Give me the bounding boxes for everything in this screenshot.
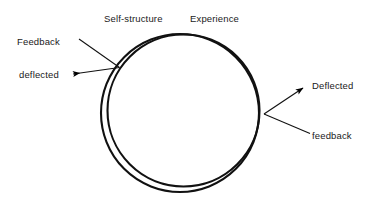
label-self-structure: Self-structure: [104, 13, 163, 24]
right-deflected-arrow: [264, 88, 303, 114]
label-deflected-left: deflected: [19, 69, 59, 80]
label-deflected-right: Deflected: [312, 80, 353, 91]
diagram-graphics: [0, 0, 379, 200]
label-feedback-left: Feedback: [17, 36, 60, 47]
label-experience: Experience: [190, 13, 239, 24]
diagram-canvas: Self-structure Experience Feedback defle…: [0, 0, 379, 200]
right-feedback-connector: [264, 114, 310, 134]
outer-circle: [101, 34, 259, 192]
label-feedback-right: feedback: [312, 130, 352, 141]
left-feedback-connector: [79, 39, 120, 68]
inner-circle: [108, 35, 260, 187]
